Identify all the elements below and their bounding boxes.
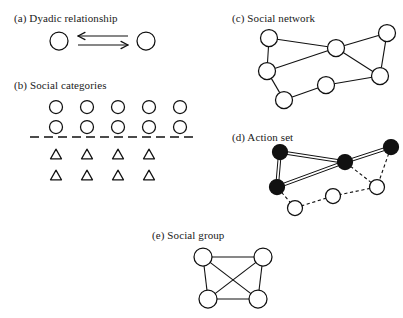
edge-c5-c6 <box>334 77 372 83</box>
panel-canvas-social-categories <box>28 96 198 188</box>
node-c1-open <box>261 30 278 47</box>
edge-c2-c4 <box>275 51 329 69</box>
edge-c3-c5 <box>381 41 385 68</box>
category-circle-r2-c1 <box>50 121 63 134</box>
node-layer-b <box>50 101 187 180</box>
figure-root: (a) Dyadic relationship (b) Social categ… <box>0 0 403 318</box>
edge-c1-c2 <box>277 39 328 47</box>
category-triangle-r1-c2 <box>82 149 93 159</box>
node-c3-open <box>379 25 396 42</box>
edge-d2-d4-rail-a <box>283 163 338 183</box>
node-a1-open <box>50 32 68 50</box>
category-triangle-r2-c3 <box>113 170 124 180</box>
edge-e2-e3 <box>215 262 256 294</box>
edge-d1-d4-rail-a <box>276 159 278 180</box>
panel-label-e: (e) Social group <box>152 229 224 242</box>
dyadic-arrow-left <box>78 32 128 39</box>
edge-c4-c7 <box>271 78 280 93</box>
edge-e1-e4 <box>210 262 251 294</box>
category-triangle-r2-c1 <box>51 170 62 180</box>
node-e4-open <box>249 290 267 308</box>
category-circle-r1-c1 <box>50 101 63 114</box>
category-circle-r2-c2 <box>81 121 94 134</box>
node-e2-open <box>254 248 272 266</box>
panel-d-drawing <box>252 142 398 212</box>
category-triangle-r1-c4 <box>144 149 155 159</box>
node-d2-filled <box>338 155 353 170</box>
node-c2-open <box>328 40 345 57</box>
node-d1-filled <box>273 145 288 160</box>
edge-d4-d7 <box>282 192 291 202</box>
panel-b-drawing <box>28 96 198 188</box>
category-triangle-r1-c1 <box>51 149 62 159</box>
edge-d1-d4-rail-b <box>279 159 281 180</box>
edge-d2-d4-rail-b <box>284 166 339 186</box>
node-c4-open <box>259 63 276 80</box>
panel-canvas-social-group <box>190 244 276 310</box>
edge-c1-c4 <box>267 46 268 63</box>
node-d5-open <box>370 180 385 195</box>
node-d3-filled <box>384 140 399 155</box>
edge-layer-a <box>78 32 128 48</box>
node-e3-open <box>199 290 217 308</box>
node-d6-open <box>326 189 341 204</box>
edge-c2-c5 <box>343 52 374 71</box>
edge-e1-e3 <box>204 265 207 290</box>
node-layer-a <box>50 32 155 50</box>
node-d7-open <box>288 201 303 216</box>
category-circle-r1-c2 <box>81 101 94 114</box>
node-layer-d <box>270 140 399 216</box>
node-c7-open <box>276 92 293 109</box>
category-circle-r2-c5 <box>174 121 187 134</box>
edge-c6-c7 <box>292 88 319 98</box>
edge-d5-d6 <box>340 188 370 194</box>
edge-d2-d3-rail-b <box>351 148 384 159</box>
node-c5-open <box>372 68 389 85</box>
node-c6-open <box>318 77 335 94</box>
edge-d2-d3-rail-a <box>352 150 385 161</box>
panel-e-drawing <box>190 244 276 310</box>
node-e1-open <box>194 248 212 266</box>
dyadic-arrow-right <box>78 41 128 48</box>
category-circle-r1-c5 <box>174 101 187 114</box>
edge-d3-d5 <box>379 154 388 181</box>
panel-c-drawing <box>252 24 398 102</box>
category-triangle-r2-c2 <box>82 170 93 180</box>
edge-d2-d5 <box>351 166 372 182</box>
panel-canvas-action-set <box>252 142 398 212</box>
category-circle-r2-c4 <box>143 121 156 134</box>
category-circle-r1-c3 <box>112 101 125 114</box>
edge-e2-e4 <box>259 265 262 290</box>
panel-label-b: (b) Social categories <box>14 79 107 92</box>
edge-c2-c3 <box>344 35 380 45</box>
node-a2-open <box>137 32 155 50</box>
category-triangle-r2-c4 <box>144 170 155 180</box>
category-circle-r2-c3 <box>112 121 125 134</box>
panel-canvas-dyadic-relationship <box>48 24 158 58</box>
edge-d6-d7 <box>302 198 327 206</box>
category-circle-r1-c4 <box>143 101 156 114</box>
panel-canvas-social-network <box>252 24 398 102</box>
node-d4-filled <box>270 180 285 195</box>
panel-a-drawing <box>48 24 158 58</box>
category-triangle-r1-c3 <box>113 149 124 159</box>
